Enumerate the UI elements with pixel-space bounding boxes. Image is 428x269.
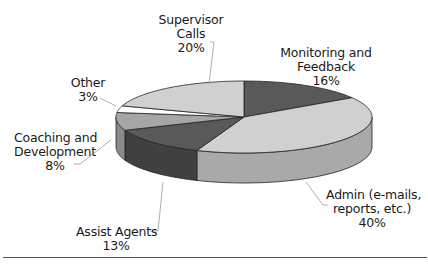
label-admin-pct: 40%: [326, 216, 418, 230]
label-monitoring-feedback: Monitoring and Feedback 16%: [278, 46, 374, 88]
label-coaching-line2: Development: [14, 145, 96, 159]
caption-divider: [3, 257, 427, 258]
label-supervisor-line2: Calls: [158, 27, 224, 41]
label-other-line1: Other: [68, 76, 108, 90]
label-admin-line2: reports, etc.): [326, 202, 418, 216]
label-coaching-line1: Coaching and: [14, 131, 96, 145]
label-admin: Admin (e-mails, reports, etc.) 40%: [326, 188, 418, 230]
leader-admin: [306, 182, 328, 205]
label-monitoring-line1: Monitoring and: [278, 46, 374, 60]
label-other-pct: 3%: [68, 90, 108, 104]
label-coaching-development: Coaching and Development 8%: [14, 131, 96, 173]
pie-top-face: [116, 81, 372, 153]
label-assist-agents: Assist Agents 13%: [76, 225, 156, 253]
label-supervisor-pct: 20%: [158, 41, 224, 55]
label-supervisor-line1: Supervisor: [158, 13, 224, 27]
label-monitoring-pct: 16%: [278, 74, 374, 88]
label-assist-pct: 13%: [76, 239, 156, 253]
label-admin-line1: Admin (e-mails,: [326, 188, 418, 202]
label-supervisor-calls: Supervisor Calls 20%: [158, 13, 224, 55]
label-assist-line1: Assist Agents: [76, 225, 156, 239]
label-coaching-pct: 8%: [14, 159, 96, 173]
label-monitoring-line2: Feedback: [278, 60, 374, 74]
label-other: Other 3%: [68, 76, 108, 104]
